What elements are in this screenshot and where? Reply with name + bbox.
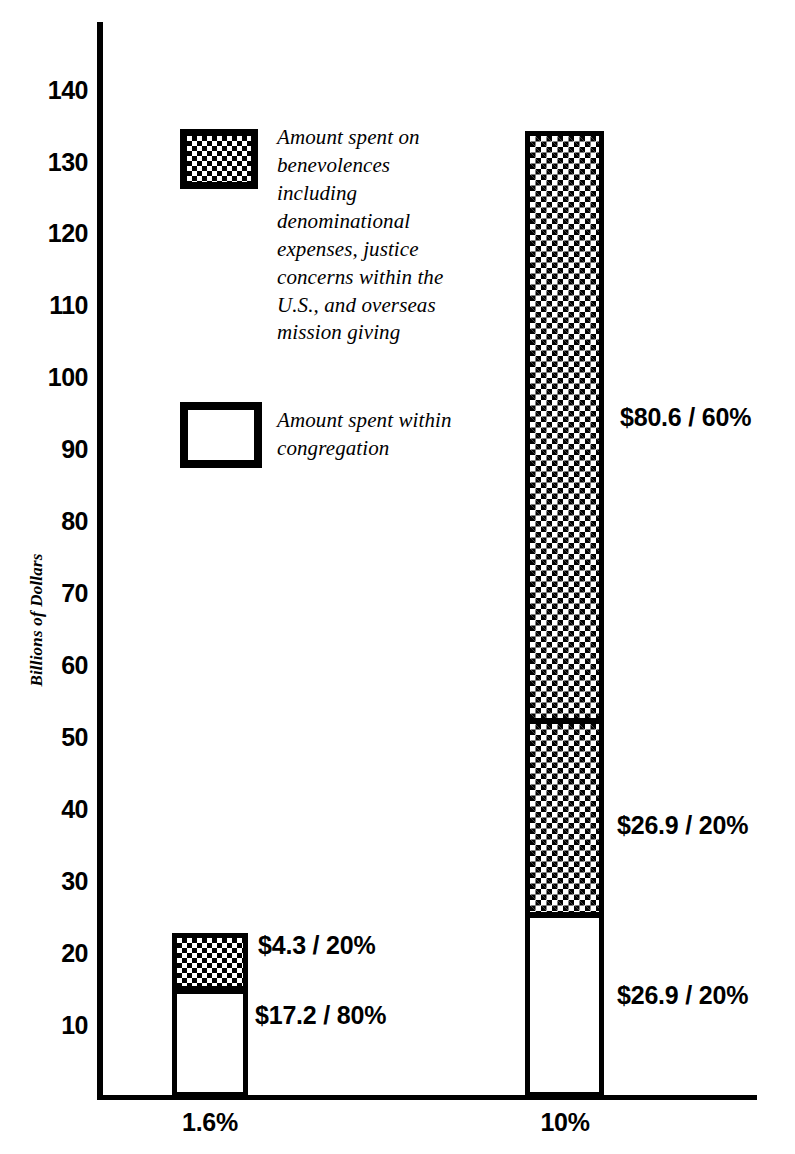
y-tick-label: 100 xyxy=(0,365,88,390)
x-category-label-1: 1.6% xyxy=(150,1108,270,1137)
y-axis-title: Billions of Dollars xyxy=(27,520,47,720)
bar-2-segment-benevolences-upper xyxy=(525,131,604,723)
value-label-bar1-bottom: $17.2 / 80% xyxy=(255,1001,386,1030)
bar-2-segment-benevolences-lower xyxy=(525,719,604,917)
legend-swatch-benevolences xyxy=(180,129,258,189)
bar-1-segment-congregation xyxy=(172,989,248,1097)
x-category-label-2: 10% xyxy=(505,1108,625,1137)
legend-label-congregation: Amount spent within congregation xyxy=(277,407,477,463)
y-tick-label: 10 xyxy=(0,1013,88,1038)
chart-canvas: Billions of Dollars 140 130 120 110 100 … xyxy=(0,0,795,1154)
value-label-bar2-mid: $26.9 / 20% xyxy=(617,811,748,840)
x-tick-mark-right-2 xyxy=(599,1062,604,1096)
y-tick-label: 130 xyxy=(0,150,88,175)
y-tick-label: 60 xyxy=(0,653,88,678)
y-tick-label: 20 xyxy=(0,941,88,966)
x-tick-mark-right-1 xyxy=(525,1062,530,1096)
legend-swatch-congregation xyxy=(180,402,262,468)
value-label-bar2-top: $80.6 / 60% xyxy=(620,403,751,432)
y-tick-label: 70 xyxy=(0,581,88,606)
y-axis-line xyxy=(97,22,103,1100)
bar-1-segment-benevolences xyxy=(172,933,248,991)
y-tick-label: 80 xyxy=(0,509,88,534)
y-tick-label: 90 xyxy=(0,437,88,462)
bar-2-segment-congregation xyxy=(525,913,604,1097)
x-tick-mark-left-1 xyxy=(172,1062,177,1096)
value-label-bar2-bottom: $26.9 / 20% xyxy=(617,981,748,1010)
y-tick-label: 50 xyxy=(0,725,88,750)
y-tick-label: 120 xyxy=(0,221,88,246)
y-tick-label: 30 xyxy=(0,869,88,894)
y-tick-label: 140 xyxy=(0,78,88,103)
legend-label-benevolences: Amount spent on benevolences including d… xyxy=(277,124,445,347)
y-tick-label: 110 xyxy=(0,293,88,318)
x-tick-mark-left-2 xyxy=(243,1062,248,1096)
y-tick-label: 40 xyxy=(0,797,88,822)
value-label-bar1-top: $4.3 / 20% xyxy=(258,931,376,960)
